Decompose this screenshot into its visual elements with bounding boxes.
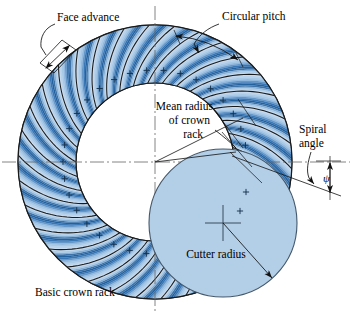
figure-canvas: Face advance Circular pitch Mean radius … [0, 0, 352, 316]
leader-face-advance-tail [41, 47, 46, 55]
crown-rack-diagram: Face advance Circular pitch Mean radius … [0, 0, 352, 316]
leader-spiral-angle-tail [309, 178, 314, 184]
leader-face-advance [41, 24, 55, 47]
label-circular-pitch: Circular pitch [222, 10, 286, 23]
label-mean-radius-line3: rack [183, 128, 203, 140]
label-spiral-angle-symbol: ψ [323, 172, 330, 184]
label-cutter-radius: Cutter radius [186, 248, 246, 260]
label-mean-radius-line2: of crown [169, 114, 210, 126]
label-spiral-angle-line1: Spiral [299, 123, 326, 136]
leader-spiral-angle [308, 152, 311, 178]
label-basic-crown-rack: Basic crown rack [35, 286, 115, 298]
label-spiral-angle-line2: angle [299, 137, 324, 150]
label-face-advance: Face advance [57, 11, 119, 23]
label-mean-radius-line1: Mean radius [156, 100, 214, 112]
